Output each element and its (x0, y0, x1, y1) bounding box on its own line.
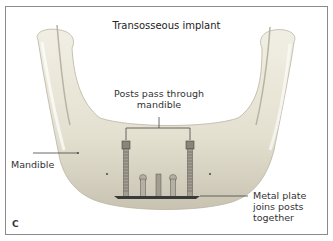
posts-label-line-1: Posts pass through (109, 88, 209, 99)
posts-label: Posts pass through mandible (109, 88, 209, 110)
plate-label-line-2: joins posts (253, 201, 306, 212)
plate-label-line-3: together (253, 212, 306, 223)
plate-label: Metal plate joins posts together (253, 190, 306, 223)
mandible-label: Mandible (11, 159, 54, 170)
metal-plate (114, 196, 200, 199)
mandible-bone (37, 25, 295, 210)
plate-label-line-1: Metal plate (253, 190, 306, 201)
posts-label-line-2: mandible (109, 99, 209, 110)
panel-letter: C (12, 219, 19, 230)
figure-title: Transosseous implant (0, 20, 333, 31)
